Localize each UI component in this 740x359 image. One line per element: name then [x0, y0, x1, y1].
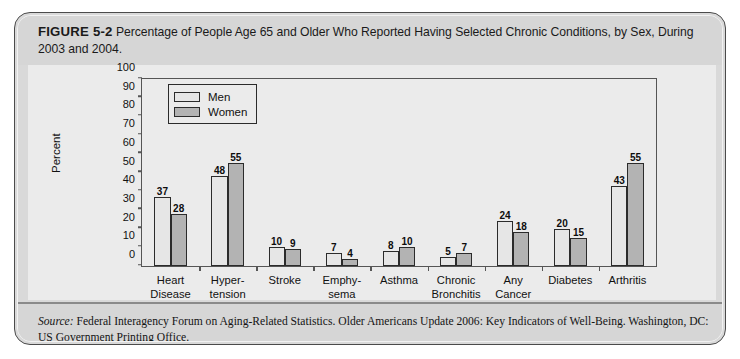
source-note: Source: Federal Interagency Forum on Agi…: [38, 314, 710, 342]
x-axis-category-label: HeartDisease: [150, 274, 190, 301]
y-axis-tick-label: 20: [123, 211, 135, 223]
x-axis-tick-mark: [313, 266, 315, 271]
y-axis-tick-label: 70: [123, 117, 135, 129]
y-axis-tick-label: 10: [123, 229, 135, 241]
bar-value-label: 24: [500, 210, 511, 221]
bar-value-label: 15: [573, 227, 584, 238]
bar-value-label: 55: [630, 152, 641, 163]
bar-value-label: 7: [331, 242, 337, 253]
bar-women: 4: [342, 259, 358, 266]
figure-caption-text: Percentage of People Age 65 and Older Wh…: [38, 25, 693, 56]
bar-men: 7: [326, 253, 342, 266]
y-axis-tick-label: 50: [123, 155, 135, 167]
y-axis-tick-label: 30: [123, 192, 135, 204]
x-axis-category-label: Arthritis: [608, 274, 646, 288]
x-axis-category-label: Stroke: [269, 274, 301, 288]
bar-men: 43: [611, 186, 627, 266]
bar-men: 8: [383, 251, 399, 266]
source-body: Federal Interagency Forum on Aging-Relat…: [38, 315, 709, 342]
bar-value-label: 4: [347, 248, 353, 259]
plot-area: 0102030405060708090100 3728HeartDisease4…: [141, 78, 657, 267]
chart-panel: Percent 0102030405060708090100 3728Heart…: [28, 65, 716, 300]
figure-label: FIGURE 5-2: [38, 24, 113, 39]
bar-value-label: 43: [614, 175, 625, 186]
bar-women: 28: [171, 214, 187, 266]
bar-value-label: 7: [461, 242, 467, 253]
source-band: Source: Federal Interagency Forum on Agi…: [18, 304, 722, 341]
x-axis-tick-mark: [542, 266, 544, 271]
x-axis-tick-mark: [370, 266, 372, 271]
source-prefix: Source:: [38, 315, 74, 328]
bar-value-label: 48: [214, 165, 225, 176]
x-axis-category-label: Diabetes: [548, 274, 592, 288]
bar-value-label: 28: [173, 203, 184, 214]
figure-container: FIGURE 5-2 Percentage of People Age 65 a…: [14, 12, 726, 345]
bar-women: 55: [627, 163, 643, 266]
bar-value-label: 18: [516, 221, 527, 232]
bar-men: 24: [497, 221, 513, 266]
y-axis-title: Percent: [50, 133, 62, 173]
x-axis-tick-mark: [199, 266, 201, 271]
x-axis-category-label: ChronicBronchitis: [432, 274, 481, 301]
y-axis-tick-label: 80: [123, 98, 135, 110]
legend-item-women: Women: [174, 104, 247, 119]
y-axis-tick-label: 0: [129, 248, 135, 260]
x-axis-category-label: Emphy-sema: [323, 274, 362, 301]
legend-swatch-men-icon: [174, 92, 200, 102]
x-axis-category-label: Asthma: [380, 274, 418, 288]
figure-inner-border: FIGURE 5-2 Percentage of People Age 65 a…: [17, 15, 723, 342]
bar-women: 7: [456, 253, 472, 266]
bar-value-label: 8: [388, 240, 394, 251]
x-axis-category-label: Hyper-tension: [210, 274, 246, 301]
y-axis-tick-label: 100: [117, 61, 135, 73]
legend-label-women: Women: [208, 106, 247, 118]
caption-band: FIGURE 5-2 Percentage of People Age 65 a…: [18, 16, 722, 65]
chart-legend: Men Women: [168, 84, 257, 124]
x-axis-tick-mark: [428, 266, 430, 271]
bar-value-label: 5: [445, 246, 451, 257]
bar-women: 18: [513, 232, 529, 266]
y-axis-tick-label: 90: [123, 80, 135, 92]
bar-men: 10: [269, 247, 285, 266]
bar-value-label: 10: [402, 236, 413, 247]
bar-women: 9: [285, 249, 301, 266]
bar-men: 20: [554, 229, 570, 266]
bar-women: 10: [399, 247, 415, 266]
figure-caption: FIGURE 5-2 Percentage of People Age 65 a…: [38, 24, 708, 57]
bar-value-label: 9: [290, 238, 296, 249]
legend-item-men: Men: [174, 89, 247, 104]
bar-men: 48: [211, 176, 227, 266]
y-axis-tick-label: 40: [123, 173, 135, 185]
figure-root: FIGURE 5-2 Percentage of People Age 65 a…: [0, 0, 740, 359]
legend-label-men: Men: [208, 91, 230, 103]
bar-men: 5: [440, 257, 456, 266]
bar-value-label: 55: [230, 152, 241, 163]
x-axis-tick-mark: [256, 266, 258, 271]
legend-swatch-women-icon: [174, 107, 200, 117]
bar-value-label: 37: [157, 186, 168, 197]
bar-men: 37: [154, 197, 170, 266]
bar-value-label: 10: [271, 236, 282, 247]
x-axis-tick-mark: [599, 266, 601, 271]
x-axis-category-label: AnyCancer: [495, 274, 531, 301]
y-axis-tick-label: 60: [123, 136, 135, 148]
bar-value-label: 20: [557, 218, 568, 229]
bar-women: 55: [228, 163, 244, 266]
x-axis-tick-mark: [485, 266, 487, 271]
bar-women: 15: [570, 238, 586, 266]
